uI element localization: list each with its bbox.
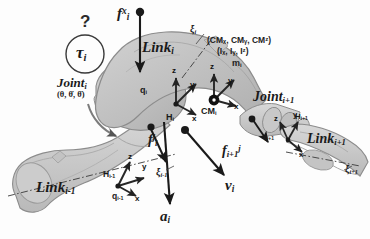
cm-i-label: CMi (201, 107, 217, 117)
frame-H-i-plus-1-z-label: z (274, 114, 278, 123)
acceleration-arrow (164, 122, 170, 204)
velocity-label: vi (225, 178, 234, 195)
joint-state-label: (θ, θ̇, θ̈) (57, 90, 84, 99)
q-i-plus-1-label: qi+1 (262, 133, 274, 142)
inertial-mass-label: mi (232, 58, 242, 68)
xi-i-plus-1-label: ξi+1 (345, 164, 358, 175)
question-mark-label: ? (80, 12, 90, 32)
frame-CM-i-y-label: y (228, 76, 232, 85)
diagram-vector-layer (0, 0, 370, 239)
frame-H-i-minus-1-z-label: z (128, 152, 132, 161)
q-i-minus-1-label: qi-1 (112, 192, 123, 202)
inertial-cm-label: (CMₓ, CMᵧ, CMᶻ) (207, 36, 271, 46)
frame-H-i-label: Hi (166, 113, 174, 123)
link-i-minus-1-label: Linki-1 (36, 180, 76, 197)
link-i-label: Linki (142, 40, 174, 57)
xi-i-label: ξi (190, 24, 196, 35)
inertial-inertia-label: (Iₓ, Iᵧ, Iᶻ) (217, 47, 248, 57)
force-joint-i-plus-1-label: fi+1j (222, 144, 241, 159)
acceleration-label: ai (160, 209, 170, 226)
force-external-label: fxi (117, 6, 129, 23)
frame-H-i-minus-1 (115, 162, 144, 196)
frame-H-i-minus-1-y-label: y (142, 162, 146, 171)
frame-CM-i-x-label: x (234, 102, 238, 111)
joint-i-plus-1-label: Jointi+1 (253, 90, 294, 105)
link-i-plus-1-label: Linki+1 (307, 132, 346, 147)
frame-CM-i-z-label: z (210, 62, 214, 71)
torque-label: τi (76, 44, 86, 63)
frame-H-i-y-label: y (190, 80, 194, 89)
frame-H-i-z-label: z (172, 66, 176, 75)
frame-H-i-plus-1-y-label: y (293, 110, 297, 119)
q-i-label: qi (140, 86, 147, 96)
frame-H-i-minus-1-label: Hi-1 (103, 170, 115, 180)
frame-H-i-minus-1-x-label: x (135, 194, 139, 203)
frame-H-i-x-label: x (192, 114, 196, 123)
frame-H-i-plus-1-x-label: x (299, 150, 303, 159)
xi-i-minus-1-label: ξi-1 (156, 167, 167, 178)
diagram-canvas: ? τi Jointi (θ, θ̇, θ̈) fxi Linki ξi (CM… (0, 0, 370, 239)
velocity-arrow (181, 126, 224, 175)
force-joint-i-label: fji (148, 133, 158, 148)
